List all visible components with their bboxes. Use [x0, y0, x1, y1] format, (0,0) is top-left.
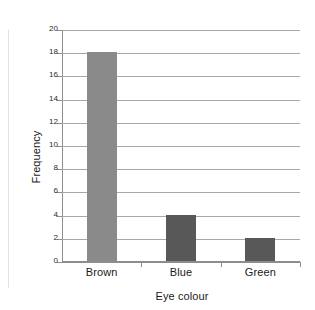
- y-axis-tick-label: 16: [49, 70, 58, 80]
- y-axis-tick-label: 18: [49, 47, 58, 57]
- plot-area: 02468101214161820: [62, 30, 300, 262]
- y-axis-tick-label: 8: [54, 163, 58, 173]
- y-axis-title: Frequency: [30, 102, 44, 212]
- x-axis-category-label-green: Green: [210, 266, 310, 278]
- y-axis-tick-label: 20: [49, 24, 58, 34]
- gridline: [62, 30, 300, 31]
- y-axis-tick-label: 6: [54, 186, 58, 196]
- y-axis-tick-label: 2: [54, 233, 58, 243]
- bar-green: [245, 238, 275, 261]
- x-axis-title: Eye colour: [62, 290, 302, 302]
- y-axis-tick-label: 12: [49, 117, 58, 127]
- y-axis-tick-label: 4: [54, 210, 58, 220]
- y-axis-tick-label: 14: [49, 94, 58, 104]
- gridline: [62, 262, 300, 263]
- y-axis-tick-label: 0: [54, 256, 58, 266]
- bar-chart-figure: Frequency 02468101214161820 Eye colour B…: [0, 0, 315, 310]
- bar-brown: [87, 52, 117, 261]
- bar-blue: [166, 215, 196, 261]
- page-edge-artifact: [8, 30, 9, 288]
- y-axis-tick-label: 10: [49, 140, 58, 150]
